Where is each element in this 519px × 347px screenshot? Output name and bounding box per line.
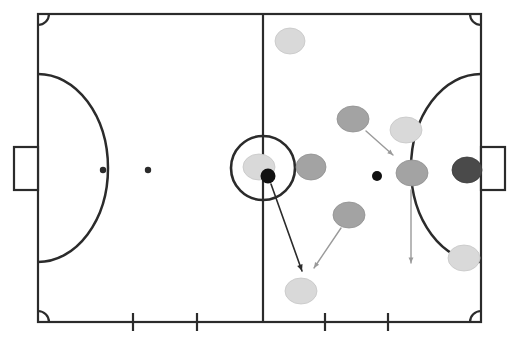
player-token-L5[interactable] [285,278,317,304]
player-token-M2[interactable] [296,154,326,180]
ball-1[interactable] [261,169,276,184]
player-token-L1[interactable] [275,28,305,54]
goal-right [481,147,505,190]
player-token-M1[interactable] [337,106,369,132]
futsal-court-svg [0,0,519,347]
player-token-M4[interactable] [333,202,365,228]
ball-2[interactable] [372,171,382,181]
player-token-L2[interactable] [390,117,422,143]
player-token-L4[interactable] [448,245,480,271]
tactical-diagram-stage [0,0,519,347]
left-second-spot [145,167,151,173]
player-token-M3[interactable] [396,160,428,186]
left-penalty-spot [100,167,106,173]
goal-left [14,147,38,190]
player-token-GK[interactable] [452,157,482,183]
